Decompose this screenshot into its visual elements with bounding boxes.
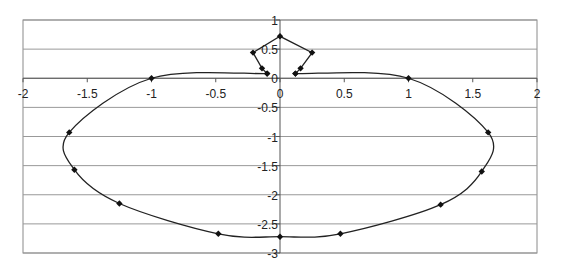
x-tick-label: 2 — [534, 87, 541, 101]
x-tick-label: -1.5 — [77, 87, 98, 101]
x-tick-label: -2 — [18, 87, 29, 101]
x-tick-label: 1 — [405, 87, 412, 101]
x-tick-label: 0.5 — [336, 87, 353, 101]
x-tick-label: 0 — [277, 87, 284, 101]
y-tick-label: -2.5 — [257, 218, 278, 232]
y-tick-label: -1 — [267, 131, 278, 145]
y-tick-label: 1 — [271, 14, 278, 28]
y-tick-label: -1.5 — [257, 160, 278, 174]
y-tick-label: -2 — [267, 189, 278, 203]
x-tick-label: 1.5 — [464, 87, 481, 101]
x-tick-label: -1 — [146, 87, 157, 101]
y-tick-label: 0 — [271, 72, 278, 86]
scatter-chart: -2-1.5-1-0.500.511.5210.50-0.5-1-1.5-2-2… — [0, 0, 570, 275]
x-tick-label: -0.5 — [205, 87, 226, 101]
y-tick-label: 0.5 — [261, 43, 278, 57]
y-tick-label: -0.5 — [257, 101, 278, 115]
y-tick-label: -3 — [267, 247, 278, 261]
